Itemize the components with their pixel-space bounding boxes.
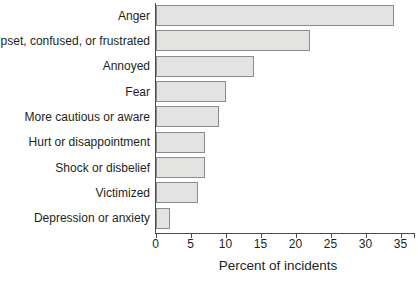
category-label-victimized: Victimized [0,182,150,203]
x-axis-title: Percent of incidents [155,258,401,273]
category-label-more-cautious-or-aware: More cautious or aware [0,106,150,127]
bar-anger [156,5,394,26]
x-tick-label-30: 30 [359,237,372,251]
bar-upset-confused-or-frustrated [156,30,310,51]
category-label-hurt-or-disappointment: Hurt or disappointment [0,132,150,153]
category-label-anger: Anger [0,5,150,26]
x-axis-line [155,233,416,234]
bar-victimized [156,182,198,203]
bar-chart-figure: AngerUpset, confused, or frustratedAnnoy… [0,0,418,287]
x-axis-end-tick [414,234,415,238]
category-label-upset-confused-or-frustrated: Upset, confused, or frustrated [0,30,150,51]
x-tick-label-10: 10 [219,237,232,251]
bar-more-cautious-or-aware [156,106,219,127]
bar-hurt-or-disappointment [156,132,205,153]
bar-annoyed [156,56,254,77]
category-label-shock-or-disbelief: Shock or disbelief [0,157,150,178]
bar-shock-or-disbelief [156,157,205,178]
x-tick-label-0: 0 [152,237,159,251]
x-tick-label-20: 20 [289,237,302,251]
x-tick-label-25: 25 [324,237,337,251]
bar-depression-or-anxiety [156,208,170,229]
category-label-fear: Fear [0,81,150,102]
x-tick-label-15: 15 [254,237,267,251]
category-label-depression-or-anxiety: Depression or anxiety [0,208,150,229]
category-label-annoyed: Annoyed [0,56,150,77]
x-tick-label-5: 5 [187,237,194,251]
x-tick-label-35: 35 [394,237,407,251]
bar-fear [156,81,226,102]
